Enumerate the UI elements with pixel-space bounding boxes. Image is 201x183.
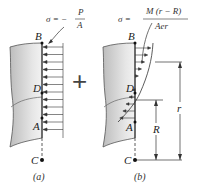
point-c-b: C — [124, 154, 132, 166]
uniform-stress-arrows — [43, 43, 63, 138]
point-d-b: D — [125, 82, 134, 94]
formula-b-num: M (r − R) — [145, 6, 181, 16]
dimension-R: R — [152, 123, 160, 135]
formula-b-lhs: σ = — [118, 14, 131, 24]
caption-b: (b) — [134, 171, 146, 183]
point-b-b: B — [128, 30, 135, 42]
point-a-b: A — [125, 121, 133, 133]
plus-sign: + — [72, 66, 87, 96]
formula-a-num: P — [77, 7, 84, 17]
point-b-a: B — [35, 30, 42, 42]
stress-diagram: σ = − P A B D A C (a) + σ = M (r − R) Ae… — [0, 0, 201, 183]
dimension-r: r — [177, 102, 182, 114]
point-a-a: A — [32, 120, 40, 132]
point-d-a: D — [32, 82, 41, 94]
point-c-a: C — [31, 154, 39, 166]
formula-b-den: Aer — [154, 21, 168, 31]
formula-a-den: A — [76, 20, 83, 30]
formula-a-lhs: σ = − — [46, 14, 67, 24]
caption-a: (a) — [33, 171, 45, 183]
